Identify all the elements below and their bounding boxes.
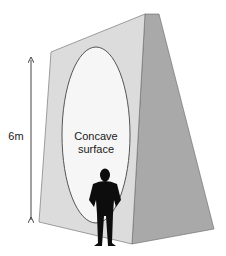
surface-label-line1: Concave [66, 130, 126, 142]
height-label: 6m [6, 130, 26, 142]
side-face [132, 14, 214, 244]
structure-diagram [0, 0, 226, 256]
surface-label-line2: surface [66, 143, 126, 155]
